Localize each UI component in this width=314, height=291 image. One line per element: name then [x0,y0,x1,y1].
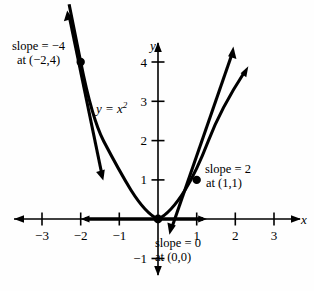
y-tick-label-2: 2 [141,133,148,148]
x-tick-label--1: −1 [112,228,126,243]
annotation-slope-0: slope = 0 at (0,0) [155,237,203,264]
annotation-slope-neg4-line1: slope = −4 [12,39,65,53]
parabola-tangents-figure: −3 −2 −1 1 2 3 x 4 3 2 1 −1 y [0,0,314,291]
tangent-0-0-right-arrowhead [198,216,207,223]
y-tick-label-4: 4 [141,55,148,70]
annotation-slope-0-line2: at (0,0) [155,251,203,265]
y-axis-label: y [148,38,156,53]
annotation-slope-neg4-line2: at (−2,4) [12,54,65,68]
annotation-slope-2: slope = 2 at (1,1) [205,163,251,190]
x-tick-label--2: −2 [74,228,88,243]
tangent-0-0-left-arrowhead [81,216,90,223]
annotation-slope-2-line2: at (1,1) [205,177,251,191]
annotation-slope-0-line1: slope = 0 [155,236,201,250]
curve-equation-base: y = x [96,101,123,116]
y-tick-label--1: −1 [133,251,147,266]
point-marker-1-1 [193,176,201,184]
curve-equation-label: y = x2 [96,100,127,117]
x-tick-label-3: 3 [271,228,278,243]
tangent-line-at-0-0 [81,215,207,224]
x-tick-label--3: −3 [35,228,49,243]
x-axis-left-arrowhead [14,215,24,223]
tangent-1-1-line [172,56,232,229]
tangent--2-4-lower-arrowhead [96,170,105,181]
x-axis-right-arrowhead [291,215,301,223]
point-marker--2-4 [77,58,85,66]
tangent-line-at-1-1 [167,47,236,235]
point-marker-0-0 [154,215,163,224]
curve-equation-exponent: 2 [123,100,128,110]
tangent--2-4-line [70,18,102,173]
annotation-slope-neg4: slope = −4 at (−2,4) [12,40,65,67]
y-tick-label-1: 1 [141,172,148,187]
y-axis-bottom-arrowhead [154,266,162,276]
annotation-slope-2-line1: slope = 2 [205,162,251,176]
y-tick-label-3: 3 [141,94,148,109]
x-axis-label: x [300,212,307,227]
tangent-line-at--2-4 [64,11,105,181]
x-tick-label-2: 2 [232,228,239,243]
